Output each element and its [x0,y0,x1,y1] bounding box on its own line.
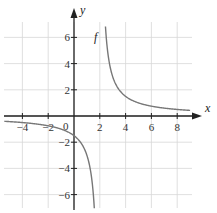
function-curve [4,26,190,208]
y-tick-label: −4 [58,162,70,174]
y-axis-arrow-icon [71,8,78,18]
y-tick-label: 6 [65,31,71,43]
curve-left-branch [4,121,94,208]
x-axis-label: x [204,101,211,115]
function-graph: −4−202468−6−4−2246 x y f [0,0,217,213]
y-axis-label: y [79,3,86,17]
y-tick-label: −2 [58,136,70,148]
x-tick-label: 8 [174,121,180,133]
grid-lines [4,22,192,208]
y-tick-label: −6 [58,189,70,201]
x-tick-label: 2 [97,121,103,133]
x-axis-arrow-icon [192,113,202,120]
x-tick-label: 4 [123,121,129,133]
y-tick-label: 2 [65,84,71,96]
y-tick-label: 4 [65,58,71,70]
x-tick-label: 6 [149,121,155,133]
